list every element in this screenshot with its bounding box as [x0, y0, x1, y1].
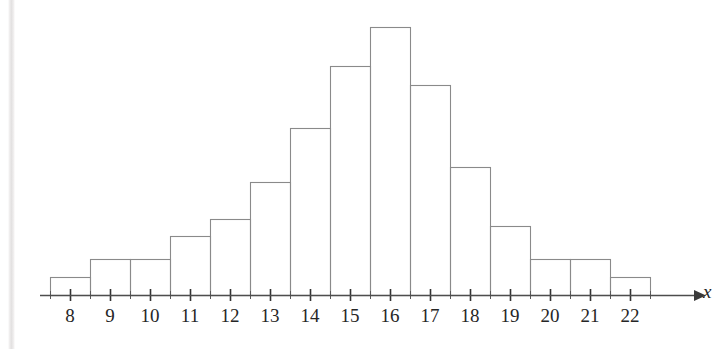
histogram-bar [451, 168, 491, 296]
histogram-bar [171, 237, 211, 296]
histogram-bar [331, 67, 371, 296]
x-axis-tick-label: 18 [450, 306, 490, 325]
x-axis-tick-label: 11 [170, 306, 210, 325]
histogram-figure: 8910111213141516171819202122 x [0, 0, 725, 349]
histogram-bar [211, 220, 251, 296]
x-axis-tick-label: 16 [370, 306, 410, 325]
histogram-bar [291, 129, 331, 296]
x-axis-tick-label: 14 [290, 306, 330, 325]
histogram-bar [491, 227, 531, 296]
x-axis-tick-label: 22 [610, 306, 650, 325]
x-axis-tick-label: 17 [410, 306, 450, 325]
histogram-bars [51, 28, 651, 296]
histogram-bar [411, 86, 451, 296]
x-axis-tick-label: 13 [250, 306, 290, 325]
histogram-bar [371, 28, 411, 296]
histogram-bar [251, 183, 291, 296]
x-axis-tick-label: 10 [130, 306, 170, 325]
x-axis-tick-label: 9 [90, 306, 130, 325]
x-axis-tick-label: 12 [210, 306, 250, 325]
x-axis-tick-label: 21 [570, 306, 610, 325]
x-axis-tick-label: 20 [530, 306, 570, 325]
x-axis-tick-label: 15 [330, 306, 370, 325]
x-axis-tick-label: 8 [50, 306, 90, 325]
histogram-plot [0, 0, 725, 349]
x-axis-variable-label: x [703, 281, 711, 303]
x-axis-tick-label: 19 [490, 306, 530, 325]
